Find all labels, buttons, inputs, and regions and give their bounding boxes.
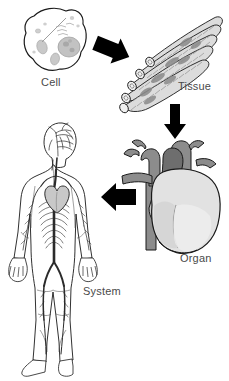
- label-system: System: [83, 285, 121, 297]
- arrow-cell-to-tissue: [90, 30, 134, 69]
- label-cell: Cell: [41, 76, 61, 88]
- organ-illustration: [122, 140, 220, 253]
- arrow-organ-to-system: [101, 183, 136, 211]
- biology-hierarchy-diagram: Cell Tissue Organ System: [0, 0, 229, 381]
- label-tissue: Tissue: [178, 80, 211, 92]
- diagram-canvas: [0, 0, 229, 381]
- label-organ: Organ: [180, 252, 212, 264]
- tissue-illustration: [118, 17, 223, 115]
- arrow-tissue-to-organ: [164, 104, 186, 139]
- system-illustration: [9, 123, 98, 376]
- cell-illustration: [24, 8, 86, 70]
